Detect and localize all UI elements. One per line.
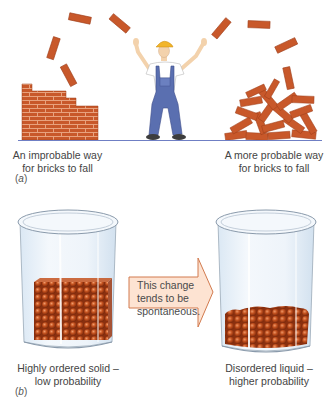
brick-icon xyxy=(60,64,77,87)
hard-hat-icon xyxy=(156,41,173,47)
part-letter: b xyxy=(18,386,24,397)
beaker-ordered-solid xyxy=(18,210,118,348)
brick-icon xyxy=(248,21,270,29)
caption-line: for bricks to fall xyxy=(218,162,330,175)
caption-probable: A more probable way for bricks to fall xyxy=(218,149,330,175)
arrow-text-line: spontaneous. xyxy=(137,305,200,318)
brick-icon xyxy=(275,38,298,54)
caption-line: Highly ordered solid – xyxy=(12,362,124,375)
brick-icon xyxy=(47,37,60,60)
hand-icon xyxy=(201,38,207,46)
beaker-disordered-liquid xyxy=(216,210,316,352)
caption-line: An improbable way xyxy=(5,149,110,162)
disordered-brick-pile xyxy=(225,79,317,141)
arrow-text-line: tends to be xyxy=(137,292,200,305)
brick-icon xyxy=(212,18,232,39)
arrow-label: This change tends to be spontaneous. xyxy=(137,279,200,318)
caption-line: A more probable way xyxy=(218,149,330,162)
caption-improbable: An improbable way for bricks to fall xyxy=(5,149,110,175)
ordered-spheres xyxy=(34,282,108,340)
caption-ordered-solid: Highly ordered solid – low probability xyxy=(12,362,124,388)
brick-icon xyxy=(109,14,130,34)
caption-line: Disordered liquid – xyxy=(213,362,325,375)
part-label-a: (a) xyxy=(15,173,27,184)
construction-worker xyxy=(133,38,207,140)
part-label-b: (b) xyxy=(15,386,27,397)
figure-illustration xyxy=(0,0,334,399)
brick-icon xyxy=(283,67,294,90)
caption-line: higher probability xyxy=(213,375,325,388)
caption-line: low probability xyxy=(12,375,124,388)
caption-disordered-liquid: Disordered liquid – higher probability xyxy=(213,362,325,388)
arrow-text-line: This change xyxy=(137,279,200,292)
part-letter: a xyxy=(18,173,24,184)
hand-icon xyxy=(133,38,139,46)
brick-icon xyxy=(68,13,91,24)
ordered-brick-wall xyxy=(22,84,98,140)
